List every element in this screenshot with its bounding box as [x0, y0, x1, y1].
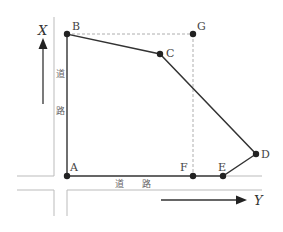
road-label-horizontal-1: 道: [115, 178, 124, 189]
point-label-f: F: [180, 161, 188, 174]
road-label-vertical-2: 路: [56, 105, 65, 116]
point-label-a: A: [69, 161, 79, 174]
y-axis-arrow: [161, 196, 247, 205]
road-label-vertical-1: 道: [56, 68, 65, 79]
point-label-g: G: [197, 20, 206, 33]
road-label-horizontal-2: 路: [142, 178, 151, 189]
y-axis-label: Y: [254, 193, 264, 208]
point-label-d: D: [261, 148, 270, 161]
survey-points: [64, 31, 259, 179]
road-lines: [17, 17, 262, 216]
point-label-b: B: [72, 20, 80, 33]
point-label-e: E: [218, 161, 226, 174]
point-label-c: C: [166, 47, 174, 60]
survey-diagram: B G C D E F A X Y 道 路 道 路: [0, 0, 283, 232]
x-axis-arrow: [39, 38, 48, 104]
x-axis-label: X: [37, 23, 48, 38]
